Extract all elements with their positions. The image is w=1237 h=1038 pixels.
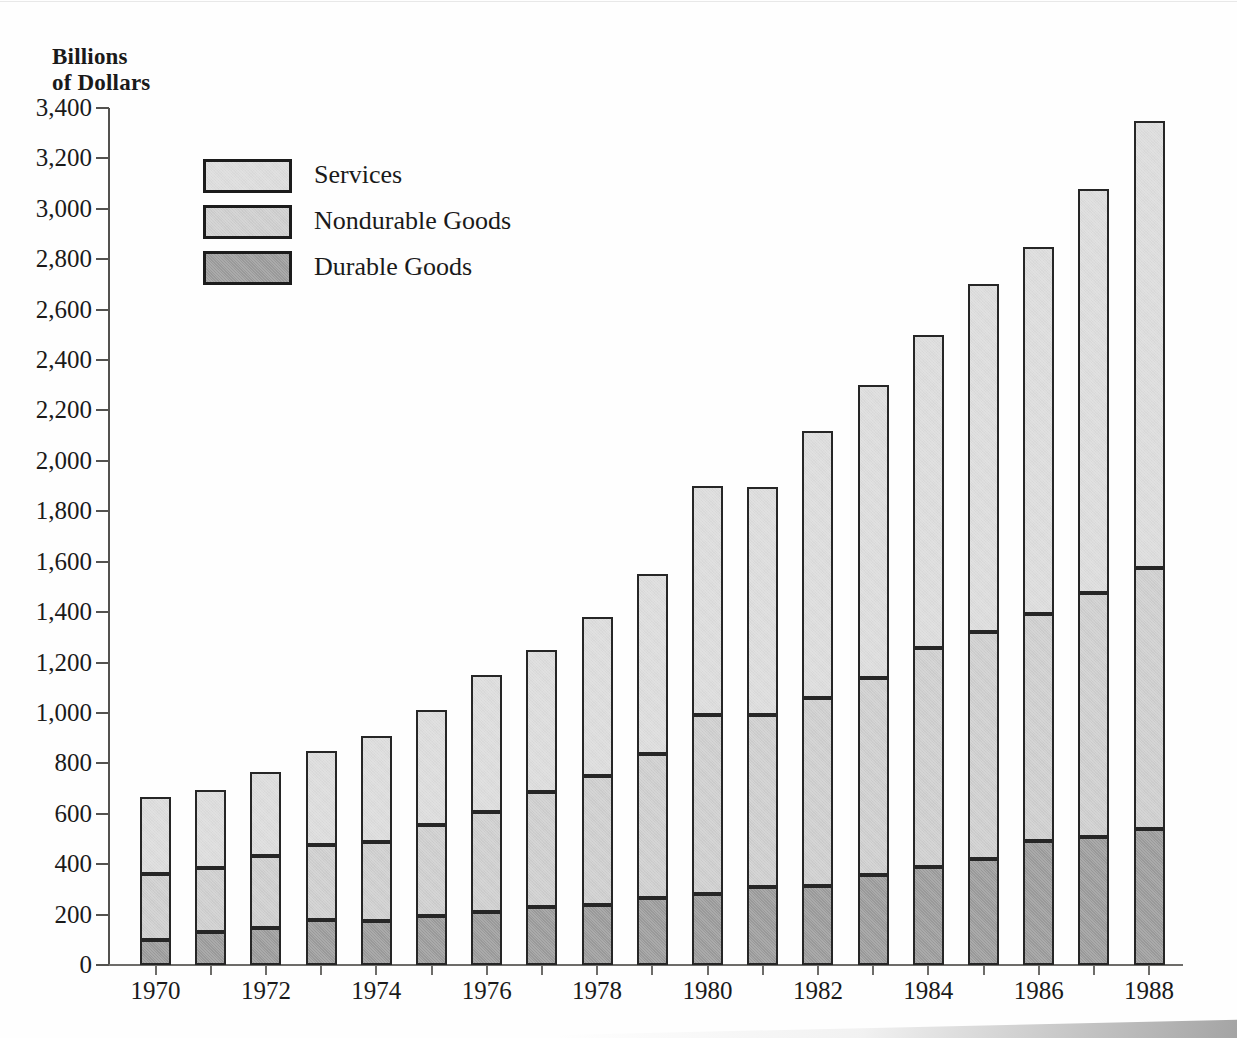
legend-label-nondurable: Nondurable Goods [314, 203, 511, 239]
bar-segment-services[interactable] [747, 487, 778, 715]
bar-segment-nondurable[interactable] [968, 632, 999, 859]
bar-1978[interactable] [582, 0, 613, 1038]
y-axis-line [108, 108, 110, 966]
bar-segment-nondurable[interactable] [361, 842, 392, 921]
bar-segment-nondurable[interactable] [637, 754, 668, 898]
bar-segment-durable[interactable] [637, 898, 668, 965]
bar-segment-services[interactable] [968, 284, 999, 631]
bar-1988[interactable] [1134, 0, 1165, 1038]
bar-segment-durable[interactable] [802, 886, 833, 965]
bar-segment-nondurable[interactable] [692, 715, 723, 894]
bar-1970[interactable] [140, 0, 171, 1038]
bar-segment-durable[interactable] [1134, 829, 1165, 965]
legend-swatch-nondurable [203, 205, 292, 239]
bar-segment-nondurable[interactable] [416, 825, 447, 916]
bar-segment-durable[interactable] [140, 940, 171, 965]
y-tick-label: 3,200 [0, 145, 92, 170]
y-tick-label: 600 [0, 801, 92, 826]
bar-segment-nondurable[interactable] [306, 845, 337, 920]
bar-segment-nondurable[interactable] [913, 648, 944, 867]
bar-segment-services[interactable] [582, 617, 613, 776]
bar-segment-nondurable[interactable] [747, 715, 778, 887]
bar-segment-durable[interactable] [1078, 837, 1109, 965]
bar-segment-services[interactable] [1023, 247, 1054, 615]
bar-1974[interactable] [361, 0, 392, 1038]
plot-area: 3,4003,2003,0002,8002,6002,4002,2002,000… [0, 0, 1237, 1038]
bar-segment-services[interactable] [471, 675, 502, 812]
bar-segment-durable[interactable] [582, 905, 613, 965]
bar-segment-services[interactable] [306, 751, 337, 846]
bar-segment-durable[interactable] [968, 859, 999, 965]
bar-segment-nondurable[interactable] [1023, 614, 1054, 841]
bar-segment-services[interactable] [140, 797, 171, 874]
y-tick-label: 2,800 [0, 246, 92, 271]
y-tick [96, 258, 109, 260]
bar-1975[interactable] [416, 0, 447, 1038]
y-tick-label: 1,200 [0, 650, 92, 675]
bar-segment-services[interactable] [637, 574, 668, 753]
bar-segment-durable[interactable] [361, 921, 392, 965]
y-tick [96, 914, 109, 916]
bar-segment-durable[interactable] [416, 916, 447, 965]
y-tick-label: 3,000 [0, 196, 92, 221]
bar-1973[interactable] [306, 0, 337, 1038]
y-tick-label: 2,600 [0, 297, 92, 322]
bar-segment-nondurable[interactable] [582, 776, 613, 905]
bar-segment-durable[interactable] [306, 920, 337, 965]
y-tick-label: 800 [0, 750, 92, 775]
bar-segment-services[interactable] [802, 431, 833, 697]
y-tick [96, 359, 109, 361]
bar-segment-durable[interactable] [195, 932, 226, 965]
bar-segment-services[interactable] [526, 650, 557, 792]
bar-1987[interactable] [1078, 0, 1109, 1038]
bar-segment-services[interactable] [858, 385, 889, 678]
bar-segment-services[interactable] [250, 772, 281, 857]
bar-segment-services[interactable] [913, 335, 944, 649]
bar-1983[interactable] [858, 0, 889, 1038]
bar-segment-durable[interactable] [692, 894, 723, 965]
y-tick-label: 0 [0, 952, 92, 977]
bar-segment-nondurable[interactable] [140, 874, 171, 940]
y-tick-label: 2,200 [0, 397, 92, 422]
bar-segment-nondurable[interactable] [1078, 593, 1109, 837]
bar-segment-durable[interactable] [1023, 841, 1054, 965]
bar-segment-durable[interactable] [747, 887, 778, 965]
bar-1982[interactable] [802, 0, 833, 1038]
bar-segment-services[interactable] [692, 486, 723, 715]
bar-segment-nondurable[interactable] [802, 698, 833, 886]
bar-1972[interactable] [250, 0, 281, 1038]
bar-1984[interactable] [913, 0, 944, 1038]
bar-segment-nondurable[interactable] [195, 868, 226, 932]
y-tick-label: 200 [0, 902, 92, 927]
bar-segment-services[interactable] [1078, 189, 1109, 593]
bar-segment-services[interactable] [361, 736, 392, 842]
y-tick-label: 1,400 [0, 599, 92, 624]
y-tick-label: 2,400 [0, 347, 92, 372]
bar-segment-durable[interactable] [913, 867, 944, 965]
bar-segment-nondurable[interactable] [471, 812, 502, 912]
bar-segment-nondurable[interactable] [858, 678, 889, 875]
bar-segment-nondurable[interactable] [250, 856, 281, 927]
bar-segment-services[interactable] [416, 710, 447, 825]
bar-segment-durable[interactable] [471, 912, 502, 965]
bar-segment-durable[interactable] [858, 875, 889, 965]
bar-segment-nondurable[interactable] [526, 792, 557, 907]
y-tick-label: 1,600 [0, 549, 92, 574]
bar-1985[interactable] [968, 0, 999, 1038]
bar-1986[interactable] [1023, 0, 1054, 1038]
y-tick [96, 561, 109, 563]
bar-segment-durable[interactable] [526, 907, 557, 965]
bar-1977[interactable] [526, 0, 557, 1038]
bar-1981[interactable] [747, 0, 778, 1038]
y-tick [96, 662, 109, 664]
bar-segment-durable[interactable] [250, 928, 281, 965]
bar-segment-services[interactable] [195, 790, 226, 869]
bar-1976[interactable] [471, 0, 502, 1038]
y-tick [96, 107, 109, 109]
bar-segment-nondurable[interactable] [1134, 568, 1165, 829]
y-tick-label: 400 [0, 851, 92, 876]
bar-segment-services[interactable] [1134, 121, 1165, 568]
bar-1980[interactable] [692, 0, 723, 1038]
bar-1971[interactable] [195, 0, 226, 1038]
bar-1979[interactable] [637, 0, 668, 1038]
